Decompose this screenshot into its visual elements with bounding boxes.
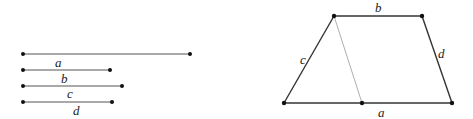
segment-c: c — [21, 84, 124, 101]
trap-label-d: d — [438, 46, 445, 61]
auxiliary-line — [334, 16, 362, 103]
diagram-canvas: a b c d b a c d — [0, 0, 473, 119]
trap-label-b: b — [375, 0, 382, 15]
label-b: b — [61, 71, 68, 86]
segment-a: a — [21, 52, 192, 70]
trap-label-a: a — [378, 105, 385, 119]
label-d: d — [73, 103, 80, 118]
label-a: a — [55, 55, 62, 70]
trapezoid: b a c d — [282, 0, 454, 119]
segment-b: b — [21, 68, 112, 86]
trap-label-c: c — [300, 52, 306, 67]
label-c: c — [67, 86, 73, 101]
segment-d: d — [21, 100, 114, 118]
